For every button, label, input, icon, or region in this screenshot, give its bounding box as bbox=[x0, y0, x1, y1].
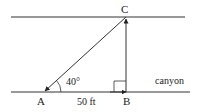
canyon-diagram: 40° A B C 50 ft canyon bbox=[0, 0, 200, 112]
point-c-label: C bbox=[121, 3, 128, 15]
right-angle-mark bbox=[114, 81, 126, 92]
distance-label: 50 ft bbox=[77, 96, 96, 107]
point-b-label: B bbox=[123, 95, 130, 107]
angle-arc bbox=[57, 80, 62, 92]
angle-label: 40° bbox=[66, 76, 80, 87]
canyon-label: canyon bbox=[155, 75, 184, 86]
line-ac bbox=[45, 17, 126, 91]
point-a-label: A bbox=[37, 95, 45, 107]
